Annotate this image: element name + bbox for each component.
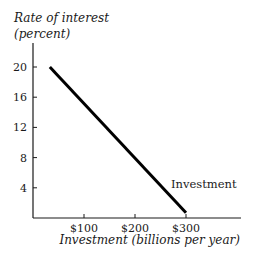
y-tick-label: 8 bbox=[20, 152, 27, 165]
y-tick-label: 16 bbox=[13, 91, 27, 104]
chart: Rate of interest (percent) 48121620 $100… bbox=[0, 0, 259, 262]
y-tick-label: 4 bbox=[20, 182, 27, 195]
y-axis-title: Rate of interest bbox=[13, 11, 109, 25]
investment-demand-line bbox=[50, 67, 186, 213]
y-tick-label: 20 bbox=[13, 61, 27, 74]
y-axis-subtitle: (percent) bbox=[14, 27, 71, 41]
x-axis-ticks: $100$200$300 bbox=[70, 214, 200, 235]
y-tick-label: 12 bbox=[13, 121, 27, 134]
series-label-investment: Investment bbox=[171, 177, 237, 191]
plot-area: Investment bbox=[50, 67, 237, 213]
x-axis-title: Investment (billions per year) bbox=[58, 233, 240, 247]
